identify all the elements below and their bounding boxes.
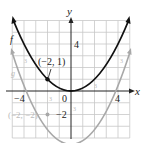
shift-label: 3 bbox=[73, 106, 76, 112]
parabola-graph: 3 3 3 3 3 y x f g (−2, 1) (−2, −2) −4 0 … bbox=[0, 0, 143, 143]
f-label: f bbox=[10, 34, 14, 45]
y-axis-label: y bbox=[66, 5, 72, 17]
y-axis-arrow-icon bbox=[69, 17, 74, 23]
x-tick-4: 4 bbox=[115, 93, 120, 104]
g-label: g bbox=[11, 69, 15, 78]
point-f-label: (−2, 1) bbox=[38, 56, 65, 68]
point-g-neg2-neg2 bbox=[46, 113, 50, 117]
curve-f-arrow-right-icon bbox=[126, 16, 131, 24]
point-f-neg2-1 bbox=[45, 77, 49, 81]
y-tick-4: 4 bbox=[74, 39, 79, 50]
shift-label: 3 bbox=[24, 58, 27, 64]
point-g-label: (−2, −2) bbox=[8, 110, 38, 120]
curve-g-arrow-left-icon bbox=[11, 48, 16, 55]
leader-line bbox=[49, 69, 52, 77]
curve-g-arrow-right-icon bbox=[127, 48, 132, 55]
shift-label: 3 bbox=[94, 83, 97, 89]
curve-f-arrow-left-icon bbox=[12, 16, 17, 24]
x-axis-label: x bbox=[134, 85, 140, 97]
x-tick-neg4: −4 bbox=[14, 93, 25, 104]
y-tick-neg2: −2 bbox=[56, 109, 67, 120]
graph-canvas: 3 3 3 3 3 y x f g (−2, 1) (−2, −2) −4 0 … bbox=[0, 0, 143, 143]
shift-label: 3 bbox=[120, 58, 123, 64]
shift-label: 3 bbox=[49, 96, 52, 102]
axes bbox=[6, 22, 131, 139]
x-tick-0: 0 bbox=[62, 93, 67, 104]
